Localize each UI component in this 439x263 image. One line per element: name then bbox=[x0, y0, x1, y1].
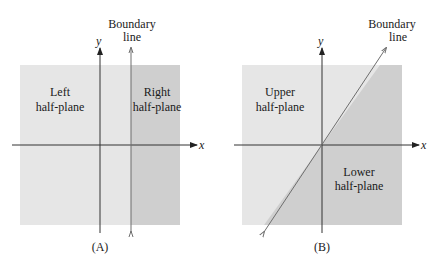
panel-a: x y Boundary line Left half-plane Right … bbox=[12, 17, 205, 254]
boundary-label-line1: Boundary bbox=[368, 17, 415, 31]
boundary-label-line1: Boundary bbox=[108, 17, 155, 31]
x-axis-label: x bbox=[198, 138, 205, 152]
panel-caption-a: (A) bbox=[92, 240, 109, 254]
region-label-left: Left bbox=[50, 85, 71, 99]
region-label-right: Right bbox=[144, 85, 171, 99]
region-label-right-2: half-plane bbox=[133, 100, 182, 114]
panel-caption-b: (B) bbox=[314, 240, 330, 254]
y-axis-label: y bbox=[317, 34, 324, 48]
region-label-upper-2: half-plane bbox=[256, 100, 305, 114]
region-label-upper: Upper bbox=[265, 85, 295, 99]
boundary-label-line2: line bbox=[389, 30, 407, 44]
x-axis-label: x bbox=[420, 138, 427, 152]
boundary-label-line2: line bbox=[123, 30, 141, 44]
region-label-left-2: half-plane bbox=[36, 100, 85, 114]
region-label-lower: Lower bbox=[343, 165, 374, 179]
y-axis-label: y bbox=[95, 34, 102, 48]
region-label-lower-2: half-plane bbox=[335, 179, 384, 193]
panel-b: x y Boundary line Upper half-plane Lower… bbox=[234, 17, 427, 254]
half-plane-diagram: x y Boundary line Left half-plane Right … bbox=[0, 0, 439, 263]
